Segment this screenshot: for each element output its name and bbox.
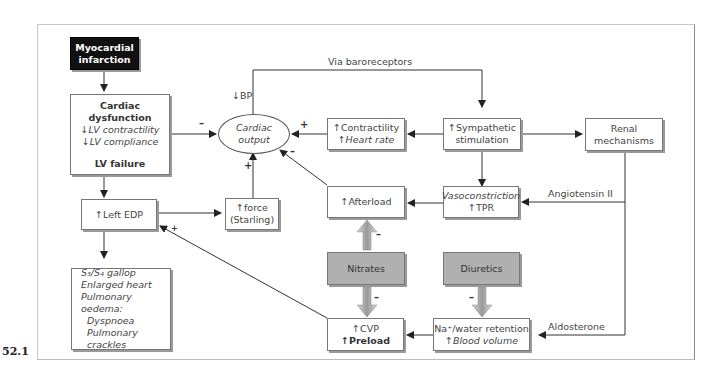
co-line1: Cardiac [236, 122, 272, 134]
renal-line1: Renal [611, 123, 638, 135]
sign-nitrates-afterload: – [376, 229, 381, 240]
co-line2: output [238, 134, 269, 146]
na-line1: Na⁺/water retention [434, 323, 529, 335]
node-force-starling: ↑force (Starling) [225, 198, 279, 230]
preload-text: ↑Preload [341, 335, 390, 347]
node-cardiac-dysfunction: Cardiac dysfunction ↓LV contractility ↓L… [70, 94, 170, 175]
sign-force-co: + [244, 160, 252, 171]
dysfunction-title: Cardiac dysfunction [71, 100, 169, 124]
nitrates-text: Nitrates [347, 263, 385, 275]
sympathetic-line2: stimulation [455, 134, 508, 146]
vaso-line1: Vasoconstriction [442, 190, 520, 202]
symptom-crackles: Pulmonary crackles [81, 327, 170, 351]
node-diuretics: Diuretics [443, 252, 520, 285]
na-line2: ↑Blood volume [445, 335, 518, 347]
node-cvp-preload: ↑CVP ↑Preload [327, 318, 404, 351]
node-left-edp: ↑Left EDP [81, 199, 157, 230]
label-angiotensin: Angiotensin II [548, 188, 613, 199]
sign-nitrates-preload: – [374, 292, 379, 303]
node-na-water-retention: Na⁺/water retention ↑Blood volume [433, 318, 530, 351]
force-line1: ↑force [236, 202, 268, 214]
label-baroreceptors: Via baroreceptors [328, 56, 412, 67]
contractility-line1: ↑Contractility [333, 122, 399, 134]
dysfunction-line1: ↓LV contractility [81, 124, 160, 136]
label-aldosterone: Aldosterone [548, 321, 605, 332]
diuretics-text: Diuretics [460, 263, 502, 275]
sign-contractility-co: + [300, 119, 308, 130]
node-contractility-heart-rate: ↑Contractility ↑Heart rate [327, 118, 405, 150]
node-myocardial-infarction: Myocardial infarction [70, 37, 139, 70]
node-renal-mechanisms: Renal mechanisms [585, 118, 663, 151]
contractility-line2: ↑Heart rate [338, 134, 395, 146]
symptom-enlarged-heart: Enlarged heart [81, 279, 152, 291]
node-sympathetic-stimulation: ↑Sympathetic stimulation [443, 118, 521, 150]
symptom-pulmonary-oedema: Pulmonary oedema: [81, 291, 170, 315]
force-line2: (Starling) [230, 214, 274, 226]
sign-afterload-co: – [290, 146, 295, 157]
left-edp-text: ↑Left EDP [95, 209, 143, 221]
node-symptoms: S₃/S₄ gallop Enlarged heart Pulmonary oe… [71, 268, 171, 350]
symptom-dyspnoea: Dyspnoea [81, 315, 134, 327]
label-bp: ↓BP [232, 90, 252, 101]
dysfunction-footer: LV failure [95, 158, 145, 170]
sympathetic-line1: ↑Sympathetic [448, 122, 516, 134]
sign-dysfunction-co: – [199, 118, 204, 129]
vaso-line2: ↑TPR [468, 202, 494, 214]
cvp-text: ↑CVP [352, 323, 379, 335]
dysfunction-line2: ↓LV compliance [82, 136, 159, 148]
sign-diuretics-na: – [469, 292, 474, 303]
sign-preload-edp: + [171, 224, 178, 233]
renal-line2: mechanisms [594, 135, 654, 147]
symptom-gallop: S₃/S₄ gallop [81, 267, 136, 279]
figure-number: 52.1 [2, 345, 29, 358]
node-vasoconstriction: Vasoconstriction ↑TPR [443, 186, 519, 218]
node-nitrates: Nitrates [327, 252, 405, 285]
mi-line2: infarction [79, 54, 131, 66]
node-afterload: ↑Afterload [327, 186, 405, 218]
afterload-text: ↑Afterload [340, 196, 391, 208]
mi-line1: Myocardial [75, 42, 134, 54]
node-cardiac-output: Cardiac output [218, 114, 290, 154]
